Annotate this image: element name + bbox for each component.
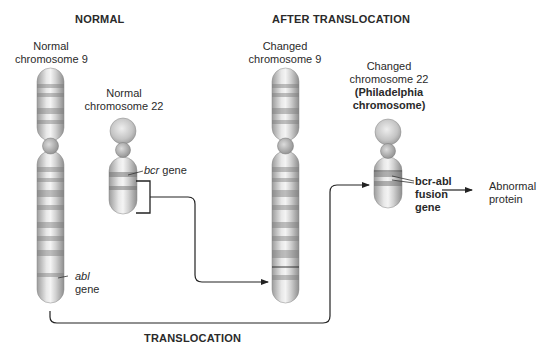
label-changed-chr9-line1: Changed	[248, 40, 322, 53]
label-abnormal-protein: Abnormal protein	[489, 180, 536, 206]
label-translocation: TRANSLOCATION	[144, 332, 241, 344]
label-changed-chr9: Changed chromosome 9	[248, 40, 322, 66]
label-philadelphia-line2: chromosome)	[348, 99, 430, 112]
bcr-italic: bcr	[144, 164, 159, 176]
label-normal-chr9-line1: Normal	[15, 40, 87, 53]
changed-chromosome-22	[374, 119, 402, 208]
normal-chromosome-22	[109, 118, 137, 214]
label-changed-chr9-line2: chromosome 9	[248, 53, 322, 66]
fusion-line3: gene	[415, 201, 452, 214]
label-changed-chr22-line2: chromosome 22	[348, 73, 430, 86]
abl-italic: abl	[75, 270, 99, 283]
label-bcr-gene: bcr gene	[144, 164, 187, 177]
translocation-arrow	[50, 185, 369, 323]
fusion-line2: fusion	[415, 188, 452, 201]
changed-chromosome-9	[272, 68, 299, 303]
header-normal: NORMAL	[75, 13, 124, 25]
label-normal-chr22: Normal chromosome 22	[84, 87, 164, 113]
fusion-line1: bcr-abl	[415, 175, 452, 188]
label-changed-chr22: Changed chromosome 22 (Philadelphia chro…	[348, 60, 430, 112]
bcr-suffix: gene	[159, 164, 187, 176]
label-fusion-gene: bcr-abl fusion gene	[415, 175, 452, 214]
label-philadelphia-line1: (Philadelphia	[348, 86, 430, 99]
label-abl-gene: abl gene	[75, 270, 99, 296]
arrow-to-changed-chr9	[150, 197, 268, 282]
normal-chromosome-9	[37, 68, 64, 303]
label-normal-chr9-line2: chromosome 9	[15, 53, 87, 66]
protein-line1: Abnormal	[489, 180, 536, 193]
header-after-translocation: AFTER TRANSLOCATION	[272, 13, 410, 25]
label-normal-chr22-line1: Normal	[84, 87, 164, 100]
protein-line2: protein	[489, 193, 536, 206]
label-normal-chr9: Normal chromosome 9	[15, 40, 87, 66]
abl-suffix: gene	[75, 283, 99, 296]
label-changed-chr22-line1: Changed	[348, 60, 430, 73]
label-normal-chr22-line2: chromosome 22	[84, 100, 164, 113]
chr22-bracket	[136, 181, 150, 213]
